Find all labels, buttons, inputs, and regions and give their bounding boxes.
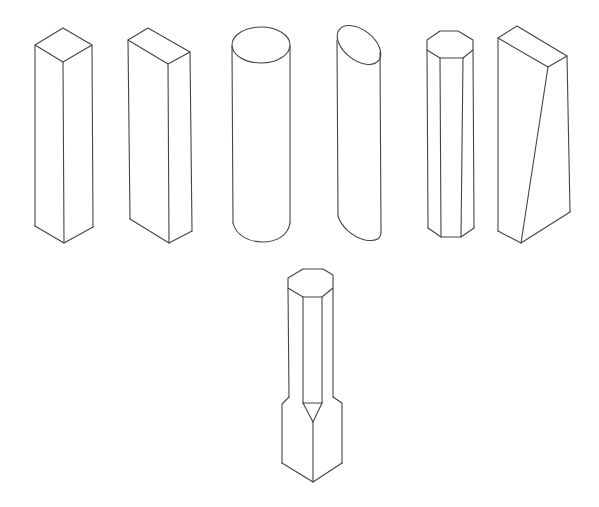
wedge-prism	[498, 26, 570, 243]
cylinder	[232, 27, 290, 242]
diagram-canvas	[0, 0, 599, 507]
square-prism	[35, 28, 93, 243]
octagonal-prism	[427, 31, 474, 237]
rectangular-prism	[128, 28, 192, 243]
octagonal-stepped-prism	[282, 269, 342, 482]
oblique-cut-cylinder	[330, 18, 388, 241]
